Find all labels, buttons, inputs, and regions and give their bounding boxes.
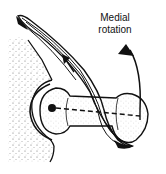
- femur-head-and-neck: [30, 84, 148, 143]
- rotation-diagram: [0, 0, 166, 174]
- rotation-label-line2: rotation: [89, 24, 141, 35]
- rotation-label-line1: Medial: [93, 12, 137, 23]
